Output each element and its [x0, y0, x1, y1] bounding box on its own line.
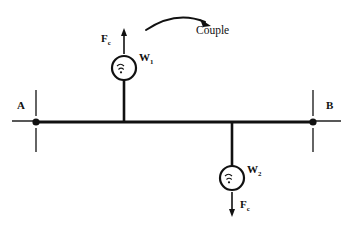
force-label-top-base: F — [101, 32, 108, 44]
force-label-top-subscript: c — [108, 39, 111, 46]
weight-label-w2-subscript: 2 — [258, 170, 261, 177]
couple-label: Couple — [196, 25, 229, 37]
weight-label-w1: W1 — [139, 52, 153, 66]
support-label-a: A — [17, 100, 25, 111]
weight-circle-w1 — [112, 56, 136, 80]
support-node-b — [309, 118, 316, 125]
force-label-bottom: Fc — [240, 199, 250, 213]
force-arrow-up — [121, 28, 127, 54]
support-label-b: B — [326, 100, 333, 111]
weight-label-w1-base: W — [139, 51, 150, 63]
weight-label-w1-subscript: 1 — [150, 58, 153, 65]
force-label-bottom-base: F — [240, 198, 247, 210]
weight-label-w2-base: W — [247, 163, 258, 175]
force-label-top: Fc — [101, 33, 111, 47]
diagram-canvas — [0, 0, 353, 229]
statics-beam-diagram: Couple Fc Fc W1 W2 A B — [0, 0, 353, 229]
support-node-a — [32, 118, 39, 125]
force-arrow-down — [229, 192, 235, 217]
force-label-bottom-subscript: c — [247, 205, 250, 212]
weight-label-w2: W2 — [247, 164, 261, 178]
weight-circle-w2 — [220, 166, 244, 190]
